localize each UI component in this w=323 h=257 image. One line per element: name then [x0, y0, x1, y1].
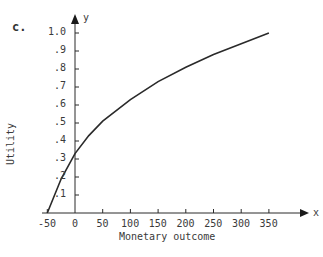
x-tick-label: 150 — [149, 218, 167, 229]
y-axis-arrow-icon — [71, 14, 79, 24]
y-tick-label: .8 — [54, 62, 66, 73]
y-tick-label: .3 — [54, 152, 66, 163]
y-tick-label: 1.0 — [48, 26, 66, 37]
axes — [42, 14, 309, 217]
x-tick-label: 100 — [121, 218, 139, 229]
x-tick-label: 0 — [72, 218, 78, 229]
x-axis-arrow-icon — [300, 209, 309, 217]
x-axis-symbol: x — [313, 207, 319, 218]
y-tick-label: .9 — [54, 44, 66, 55]
y-tick-label: .5 — [54, 116, 66, 127]
x-tick-label: 200 — [177, 218, 195, 229]
x-tick-label: 300 — [232, 218, 250, 229]
y-tick-label: .7 — [54, 80, 66, 91]
x-tick-label: 350 — [260, 218, 278, 229]
utility-curve — [47, 33, 269, 213]
x-tick-label: 50 — [97, 218, 109, 229]
y-axis-symbol: y — [83, 12, 89, 23]
y-tick-label: .1 — [54, 188, 66, 199]
y-tick-label: .4 — [54, 134, 66, 145]
x-tick-label: -50 — [38, 218, 56, 229]
y-tick-label: .2 — [54, 170, 66, 181]
y-tick-label: .6 — [54, 98, 66, 109]
x-tick-label: 250 — [204, 218, 222, 229]
